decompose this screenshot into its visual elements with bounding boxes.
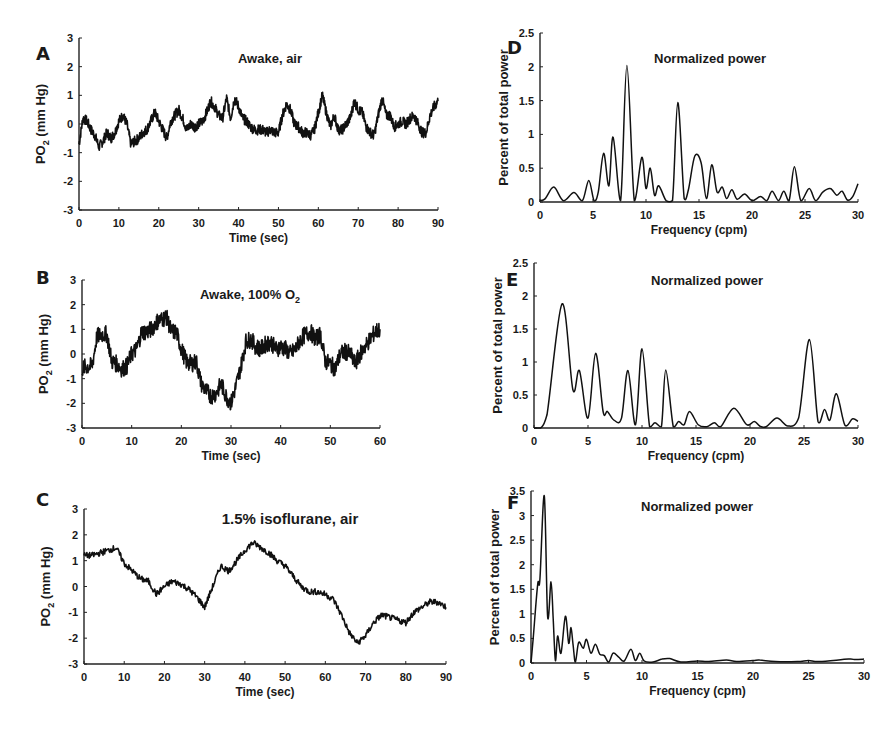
y-tick-label: 3 [67, 32, 73, 44]
x-tick-label: 0 [79, 435, 85, 447]
y-tick-label: 2 [72, 529, 78, 541]
x-tick-label: 5 [583, 670, 589, 682]
x-tick-label: 90 [432, 217, 444, 229]
x-tick-label: 30 [852, 435, 864, 447]
panel-label: C [36, 489, 49, 510]
chart-title: Normalized power [651, 273, 763, 288]
y-tick-label: 2 [67, 61, 73, 73]
chart-title: Awake, air [238, 51, 302, 66]
y-tick-label: 3 [70, 274, 76, 286]
y-tick-label: -2 [68, 632, 78, 644]
y-axis-label: PO2 (mm Hg) [33, 84, 51, 164]
x-tick-label: 0 [528, 670, 534, 682]
x-tick-label: 5 [590, 209, 596, 221]
x-tick-label: 40 [275, 435, 287, 447]
x-tick-label: 40 [232, 217, 244, 229]
y-tick-label: 1 [522, 356, 528, 368]
y-tick-label: 1 [67, 89, 73, 101]
panel-label: B [36, 267, 50, 288]
y-axis-label: Percent of total power [490, 277, 505, 414]
y-tick-label: 3.5 [510, 485, 525, 497]
y-tick-label: 0.5 [519, 162, 534, 174]
chart-title: 1.5% isoflurane, air [222, 510, 359, 527]
chart-title: Normalized power [654, 51, 766, 66]
data-trace [82, 311, 380, 410]
y-tick-label: 0 [67, 118, 73, 130]
y-tick-label: -2 [66, 397, 76, 409]
x-tick-label: 0 [81, 671, 87, 683]
y-axis-label: PO2 (mm Hg) [36, 314, 54, 394]
x-tick-label: 90 [440, 671, 452, 683]
data-trace [84, 541, 446, 644]
y-tick-label: 3 [519, 510, 525, 522]
x-tick-label: 30 [225, 435, 237, 447]
x-tick-label: 0 [537, 209, 543, 221]
x-tick-label: 30 [193, 217, 205, 229]
y-tick-label: 0 [70, 348, 76, 360]
y-tick-label: 1.5 [519, 95, 534, 107]
x-tick-label: 60 [312, 217, 324, 229]
x-tick-label: 70 [352, 217, 364, 229]
y-axis-label: Percent of total power [496, 49, 511, 186]
y-tick-label: -2 [63, 175, 73, 187]
x-axis-label: Time (sec) [235, 685, 294, 699]
x-tick-label: 15 [690, 435, 702, 447]
power-spectrum-curve [534, 304, 858, 428]
y-tick-label: 0 [528, 196, 534, 208]
y-tick-label: 1.5 [513, 323, 528, 335]
panel-label: E [506, 269, 518, 290]
x-tick-label: 15 [691, 670, 703, 682]
y-tick-label: 1 [72, 555, 78, 567]
x-tick-label: 80 [400, 671, 412, 683]
x-tick-label: 10 [118, 671, 130, 683]
y-axis-label: Percent of total power [487, 509, 502, 646]
y-tick-label: 2 [70, 299, 76, 311]
x-tick-label: 15 [693, 209, 705, 221]
x-tick-label: 10 [640, 209, 652, 221]
y-tick-label: 2.5 [510, 534, 525, 546]
y-tick-label: 1.5 [510, 583, 525, 595]
x-tick-label: 60 [319, 671, 331, 683]
data-trace [79, 92, 438, 150]
x-tick-label: 10 [636, 670, 648, 682]
y-tick-label: 0 [72, 581, 78, 593]
panel-f: F00.511.522.533.5051015202530Frequency (… [487, 485, 870, 698]
x-tick-label: 20 [153, 217, 165, 229]
y-tick-label: 2.5 [519, 27, 534, 39]
chart-title: Awake, 100% O2 [200, 287, 300, 305]
y-tick-label: -1 [66, 373, 76, 385]
panel-label: A [36, 43, 50, 64]
panel-d: D00.511.522.5051015202530Frequency (cpm)… [496, 27, 864, 237]
x-tick-label: 50 [324, 435, 336, 447]
x-tick-label: 0 [76, 217, 82, 229]
x-axis-label: Frequency (cpm) [648, 449, 745, 463]
x-tick-label: 10 [113, 217, 125, 229]
x-tick-label: 80 [392, 217, 404, 229]
y-tick-label: 2 [522, 290, 528, 302]
y-tick-label: 1 [70, 323, 76, 335]
x-tick-label: 25 [798, 435, 810, 447]
figure-canvas: A-3-2-101230102030405060708090Time (sec)… [0, 0, 891, 729]
x-tick-label: 50 [279, 671, 291, 683]
x-tick-label: 70 [359, 671, 371, 683]
figure: A-3-2-101230102030405060708090Time (sec)… [0, 0, 891, 729]
y-tick-label: -3 [66, 422, 76, 434]
panel-b: B-3-2-101230102030405060Time (sec)PO2 (m… [36, 267, 386, 463]
panel-e: E00.511.522.5051015202530Frequency (cpm)… [490, 257, 864, 463]
power-spectrum-curve [531, 496, 864, 663]
chart-title: Normalized power [641, 499, 753, 514]
x-axis-label: Frequency (cpm) [651, 223, 748, 237]
y-tick-label: -1 [63, 147, 73, 159]
y-tick-label: -3 [68, 658, 78, 670]
y-tick-label: 0.5 [510, 632, 525, 644]
y-tick-label: 0 [522, 422, 528, 434]
x-tick-label: 30 [858, 670, 870, 682]
y-tick-label: 1 [519, 608, 525, 620]
x-tick-label: 20 [175, 435, 187, 447]
x-tick-label: 0 [531, 435, 537, 447]
panel-a: A-3-2-101230102030405060708090Time (sec)… [33, 32, 444, 245]
x-tick-label: 25 [802, 670, 814, 682]
x-tick-label: 20 [744, 435, 756, 447]
x-tick-label: 20 [746, 209, 758, 221]
x-tick-label: 10 [636, 435, 648, 447]
